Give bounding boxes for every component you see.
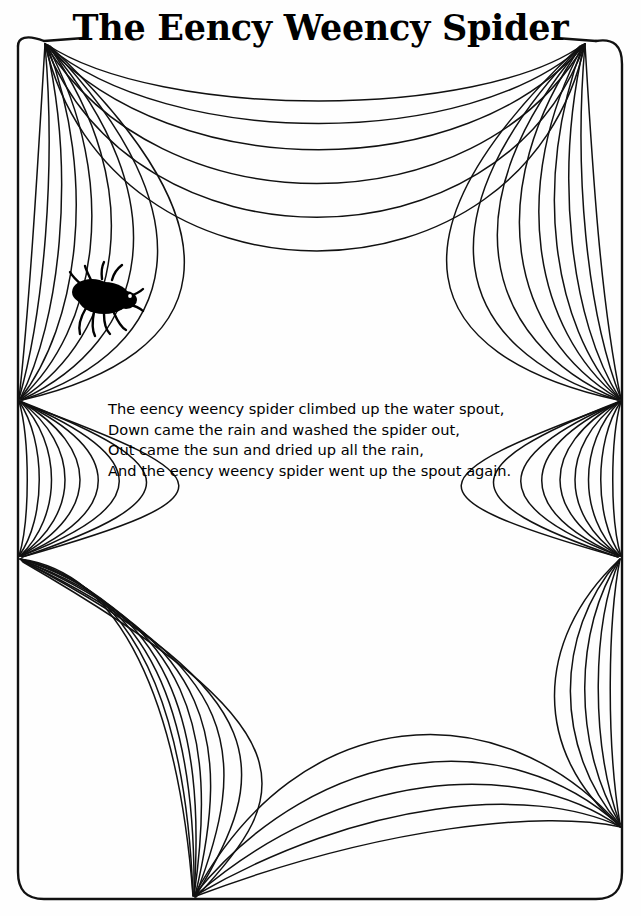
- poem-text: The eency weency spider climbed up the w…: [108, 399, 568, 481]
- web-fan-lower-right-edge: [554, 559, 620, 825]
- poem-line: Down came the rain and washed the spider…: [108, 420, 568, 441]
- web-fan-upper-left: [19, 44, 184, 400]
- poem-line: Out came the sun and dried up all the ra…: [108, 440, 568, 461]
- web-fan-upper-right: [447, 44, 621, 400]
- poem-line: And the eency weency spider went up the …: [108, 461, 568, 482]
- poem-line: The eency weency spider climbed up the w…: [108, 399, 568, 420]
- page-title: The Eency Weency Spider: [0, 8, 641, 47]
- web-bottom-arcs: [195, 735, 621, 896]
- coloring-page: The Eency Weency Spider The eency weency…: [0, 0, 641, 916]
